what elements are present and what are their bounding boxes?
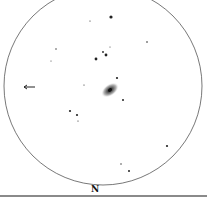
bottom-rule bbox=[0, 195, 207, 197]
star bbox=[109, 15, 112, 18]
star bbox=[89, 20, 90, 21]
star bbox=[122, 99, 124, 101]
star bbox=[76, 114, 78, 116]
star bbox=[120, 163, 121, 164]
star bbox=[102, 51, 104, 53]
star bbox=[116, 77, 118, 79]
star bbox=[146, 41, 148, 43]
star bbox=[51, 61, 52, 62]
star bbox=[105, 54, 108, 57]
star bbox=[166, 145, 168, 147]
star bbox=[95, 58, 98, 61]
star bbox=[83, 84, 84, 85]
direction-arrow-icon bbox=[24, 85, 35, 89]
star bbox=[128, 170, 130, 172]
north-label: N bbox=[91, 184, 99, 194]
star bbox=[110, 47, 111, 48]
star bbox=[69, 110, 71, 112]
galaxy bbox=[98, 79, 121, 100]
eyepiece-sketch bbox=[0, 0, 207, 198]
star bbox=[55, 48, 56, 49]
star bbox=[77, 120, 78, 121]
